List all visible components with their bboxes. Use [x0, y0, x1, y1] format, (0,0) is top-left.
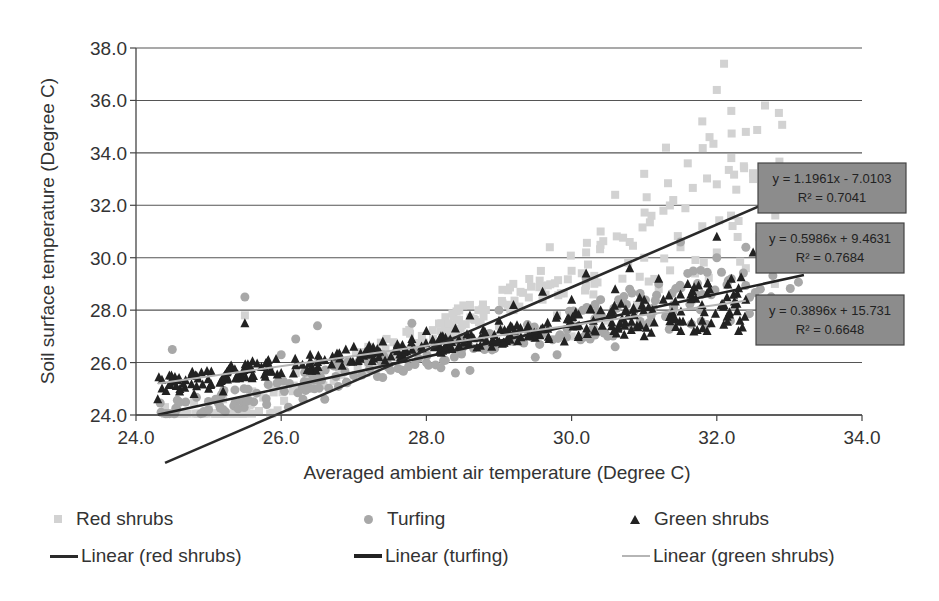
- point-red-shrubs: [583, 239, 591, 247]
- x-tick-label: 34.0: [844, 427, 881, 448]
- point-green-shrubs: [248, 356, 257, 365]
- equation-text: y = 1.1961x - 7.0103: [773, 171, 892, 186]
- point-turfing: [219, 405, 228, 414]
- point-turfing: [495, 306, 504, 315]
- point-turfing: [625, 285, 634, 294]
- point-red-shrubs: [527, 283, 535, 291]
- point-green-shrubs: [712, 232, 721, 241]
- legend-item-linear-red-shrubs[interactable]: Linear (red shrubs): [50, 545, 242, 567]
- y-tick-label: 28.0: [90, 300, 127, 321]
- point-turfing: [619, 292, 628, 301]
- point-red-shrubs: [498, 297, 506, 305]
- x-tick-label: 32.0: [698, 427, 735, 448]
- x-tick-label: 28.0: [408, 427, 445, 448]
- point-turfing: [786, 284, 795, 293]
- y-tick-label: 30.0: [90, 248, 127, 269]
- point-turfing: [244, 385, 253, 394]
- point-red-shrubs: [662, 144, 670, 152]
- legend-item-red-shrubs[interactable]: Red shrubs: [40, 508, 173, 530]
- trendline-equations: y = 1.1961x - 7.0103R² = 0.7041y = 0.598…: [756, 163, 906, 345]
- point-turfing: [378, 373, 387, 382]
- legend-label: Linear (red shrubs): [81, 545, 242, 567]
- point-turfing: [422, 358, 431, 367]
- point-red-shrubs: [517, 288, 525, 296]
- legend-label: Red shrubs: [76, 508, 173, 530]
- point-red-shrubs: [660, 254, 668, 262]
- y-axis-ticks: 24.026.028.030.032.034.036.038.0: [90, 38, 136, 426]
- point-turfing: [264, 380, 273, 389]
- r-squared-text: R² = 0.6648: [796, 322, 864, 337]
- point-red-shrubs: [659, 207, 667, 215]
- legend-item-linear-turfing[interactable]: Linear (turfing): [354, 545, 509, 567]
- square-marker-icon: [54, 515, 62, 523]
- point-red-shrubs: [713, 86, 721, 94]
- point-red-shrubs: [778, 121, 786, 129]
- x-axis-ticks: 24.026.028.030.032.034.0: [118, 415, 881, 448]
- point-green-shrubs: [349, 342, 358, 351]
- point-red-shrubs: [720, 60, 728, 68]
- x-tick-label: 26.0: [263, 427, 300, 448]
- point-turfing: [717, 268, 726, 277]
- legend: Red shrubs Turfing Green shrubs Linear (…: [0, 505, 939, 595]
- legend-label: Turfing: [387, 508, 445, 530]
- x-axis-title: Averaged ambient air temperature (Degree…: [303, 462, 690, 483]
- point-turfing: [168, 345, 177, 354]
- point-green-shrubs: [240, 318, 249, 327]
- circle-marker-icon: [364, 515, 373, 524]
- point-red-shrubs: [241, 311, 249, 319]
- point-red-shrubs: [546, 243, 554, 251]
- point-red-shrubs: [537, 267, 545, 275]
- point-red-shrubs: [478, 305, 486, 313]
- triangle-marker-icon: [630, 515, 640, 524]
- r-squared-text: R² = 0.7041: [798, 190, 866, 205]
- point-turfing: [234, 404, 243, 413]
- point-turfing: [554, 334, 563, 343]
- point-turfing: [553, 350, 562, 359]
- point-red-shrubs: [681, 204, 689, 212]
- point-turfing: [465, 366, 474, 375]
- point-red-shrubs: [568, 267, 576, 275]
- point-green-shrubs: [567, 295, 576, 304]
- point-turfing: [204, 405, 213, 414]
- point-turfing: [712, 253, 721, 262]
- data-points: [153, 60, 803, 418]
- legend-item-turfing[interactable]: Turfing: [350, 508, 445, 530]
- point-red-shrubs: [435, 320, 443, 328]
- point-turfing: [741, 243, 750, 252]
- legend-item-green-shrubs[interactable]: Green shrubs: [616, 508, 769, 530]
- point-red-shrubs: [594, 278, 602, 286]
- point-red-shrubs: [734, 233, 742, 241]
- point-red-shrubs: [639, 223, 647, 231]
- point-turfing: [703, 268, 712, 277]
- point-red-shrubs: [466, 301, 474, 309]
- point-turfing: [173, 396, 182, 405]
- point-red-shrubs: [727, 154, 735, 162]
- point-red-shrubs: [749, 175, 757, 183]
- legend-label: Linear (green shrubs): [653, 545, 835, 567]
- point-turfing: [407, 319, 416, 328]
- equation-box: y = 0.3896x + 15.731R² = 0.6648: [756, 295, 904, 345]
- line-swatch-icon: [622, 555, 650, 557]
- point-red-shrubs: [703, 174, 711, 182]
- point-turfing: [240, 293, 249, 302]
- y-tick-label: 24.0: [90, 405, 127, 426]
- legend-label: Green shrubs: [654, 508, 769, 530]
- point-green-shrubs: [683, 279, 692, 288]
- point-red-shrubs: [664, 179, 672, 187]
- point-red-shrubs: [636, 273, 644, 281]
- point-red-shrubs: [666, 266, 674, 274]
- y-tick-label: 34.0: [90, 143, 127, 164]
- point-turfing: [683, 269, 692, 278]
- gridlines: [136, 48, 862, 415]
- point-red-shrubs: [691, 256, 699, 264]
- point-red-shrubs: [567, 252, 575, 260]
- axes: [136, 48, 862, 415]
- point-red-shrubs: [742, 128, 750, 136]
- point-red-shrubs: [255, 407, 263, 415]
- legend-item-linear-green-shrubs[interactable]: Linear (green shrubs): [622, 545, 835, 567]
- point-turfing: [451, 369, 460, 378]
- point-green-shrubs: [611, 284, 620, 293]
- point-red-shrubs: [735, 217, 743, 225]
- point-red-shrubs: [706, 133, 714, 141]
- point-red-shrubs: [611, 191, 619, 199]
